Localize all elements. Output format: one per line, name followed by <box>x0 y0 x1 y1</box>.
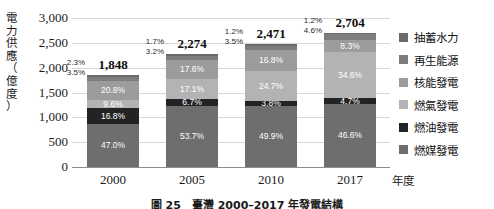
bar-segment[interactable]: 8.3% <box>324 40 376 51</box>
bar-group[interactable]: 16.8%24.7%3.8%49.9%2,471 <box>245 44 297 167</box>
legend-item[interactable]: 燃氣發電 <box>399 94 494 117</box>
bar-segment-callout-label: 1.2% <box>209 27 243 37</box>
legend-item-label: 抽蓄水力 <box>414 29 458 45</box>
x-axis-tick-labels: 2000200520102017 <box>72 172 390 190</box>
x-axis-line <box>72 167 390 168</box>
legend-item[interactable]: 抽蓄水力 <box>399 26 494 49</box>
legend-item-label: 核能發電 <box>414 74 458 90</box>
bar-series-container: 20.8%9.6%16.8%47.0%1,8482.3%3.5%17.6%17.… <box>72 18 390 167</box>
x-tick-label: 2000 <box>82 172 144 188</box>
bar-stack: 20.8%9.6%16.8%47.0% <box>87 75 139 167</box>
bar-segment[interactable]: 16.8% <box>87 108 139 123</box>
y-tick-label: 2,500 <box>4 35 68 51</box>
bar-segment[interactable]: 24.7% <box>245 71 297 101</box>
bar-segment-label: 16.8% <box>259 56 283 65</box>
legend-item[interactable]: 核能發電 <box>399 71 494 94</box>
y-tick-label: 1,500 <box>4 85 68 101</box>
legend-item-label: 燃媒發電 <box>414 142 458 158</box>
bar-segment[interactable]: 34.6% <box>324 52 376 98</box>
plot-area: 20.8%9.6%16.8%47.0%1,8482.3%3.5%17.6%17.… <box>72 18 390 168</box>
bar-segment[interactable]: 17.1% <box>166 79 218 98</box>
legend-item-label: 燃氣發電 <box>414 97 458 113</box>
x-tick-label: 2010 <box>240 172 302 188</box>
bar-segment-label: 8.3% <box>340 42 359 51</box>
bar-stack: 17.6%17.1%6.7%53.7% <box>166 54 218 167</box>
bar-segment-label: 9.6% <box>103 100 122 109</box>
bar-segment-label: 17.6% <box>180 65 204 74</box>
bar-outside-callouts: 1.2%4.6% <box>288 16 322 36</box>
legend-swatch-icon <box>399 100 408 109</box>
legend-swatch-icon <box>399 145 408 154</box>
bar-segment[interactable]: 49.9% <box>245 106 297 167</box>
bar-segment-callout-label: 3.5% <box>51 68 85 78</box>
legend-swatch-icon <box>399 123 408 132</box>
bar-total-label: 1,848 <box>82 57 144 73</box>
bar-total-label: 2,704 <box>319 15 381 31</box>
bar-outside-callouts: 1.7%3.2% <box>130 37 164 57</box>
y-tick-label: 0 <box>4 159 68 175</box>
legend-item-label: 燃油發電 <box>414 119 458 135</box>
bar-segment-label: 16.8% <box>101 112 125 121</box>
bar-group[interactable]: 8.3%34.6%4.7%46.6%2,704 <box>324 33 376 167</box>
bar-segment[interactable]: 9.6% <box>87 100 139 109</box>
bar-group[interactable]: 17.6%17.1%6.7%53.7%2,274 <box>166 54 218 167</box>
bar-stack: 8.3%34.6%4.7%46.6% <box>324 33 376 167</box>
chart-legend: 抽蓄水力再生能源核能發電燃氣發電燃油發電燃媒發電 <box>399 26 494 161</box>
bar-segment[interactable]: 53.7% <box>166 106 218 167</box>
bar-segment-label: 49.9% <box>259 132 283 141</box>
bar-segment-callout-label: 2.3% <box>51 58 85 68</box>
legend-item-label: 再生能源 <box>414 52 458 68</box>
y-tick-label: 3,000 <box>4 10 68 26</box>
x-tick-label: 2005 <box>161 172 223 188</box>
bar-segment[interactable]: 47.0% <box>87 124 139 167</box>
bar-segment[interactable]: 6.7% <box>166 99 218 107</box>
bar-segment-label: 46.6% <box>338 131 362 140</box>
legend-swatch-icon <box>399 78 408 87</box>
legend-item[interactable]: 再生能源 <box>399 49 494 72</box>
bar-segment-label: 24.7% <box>259 82 283 91</box>
bar-segment[interactable]: 46.6% <box>324 104 376 167</box>
legend-swatch-icon <box>399 55 408 64</box>
x-axis-unit-label: 年度 <box>392 172 414 188</box>
legend-item[interactable]: 燃媒發電 <box>399 139 494 162</box>
legend-swatch-icon <box>399 33 408 42</box>
y-axis-tick-labels: 3,0002,5002,0001,5001,0005000 <box>0 18 68 168</box>
bar-segment-callout-label: 1.2% <box>288 16 322 26</box>
bar-segment-callout-label: 3.5% <box>209 37 243 47</box>
bar-outside-callouts: 2.3%3.5% <box>51 58 85 78</box>
bar-segment-callout-label: 3.2% <box>130 47 164 57</box>
bar-segment-label: 6.7% <box>182 99 201 107</box>
bar-stack: 16.8%24.7%3.8%49.9% <box>245 44 297 167</box>
y-tick-label: 1,000 <box>4 109 68 125</box>
bar-segment[interactable]: 20.8% <box>87 81 139 100</box>
bar-group[interactable]: 20.8%9.6%16.8%47.0%1,848 <box>87 75 139 167</box>
bar-outside-callouts: 1.2%3.5% <box>209 27 243 47</box>
chart-figure: 電力供應（億度） 3,0002,5002,0001,5001,0005000 2… <box>0 0 494 209</box>
legend-item[interactable]: 燃油發電 <box>399 116 494 139</box>
figure-caption: 圖 25 臺灣 2000–2017 年發電結構 <box>0 196 494 209</box>
y-tick-label: 500 <box>4 134 68 150</box>
bar-segment-callout-label: 4.6% <box>288 26 322 36</box>
bar-segment[interactable]: 17.6% <box>166 60 218 80</box>
bar-segment[interactable]: 16.8% <box>245 50 297 71</box>
bar-segment-label: 34.6% <box>338 71 362 80</box>
bar-segment-label: 47.0% <box>101 141 125 150</box>
x-tick-label: 2017 <box>319 172 381 188</box>
bar-segment-label: 20.8% <box>101 86 125 95</box>
bar-segment-label: 53.7% <box>180 132 204 141</box>
bar-segment-callout-label: 1.7% <box>130 37 164 47</box>
bar-segment-label: 17.1% <box>180 85 204 94</box>
